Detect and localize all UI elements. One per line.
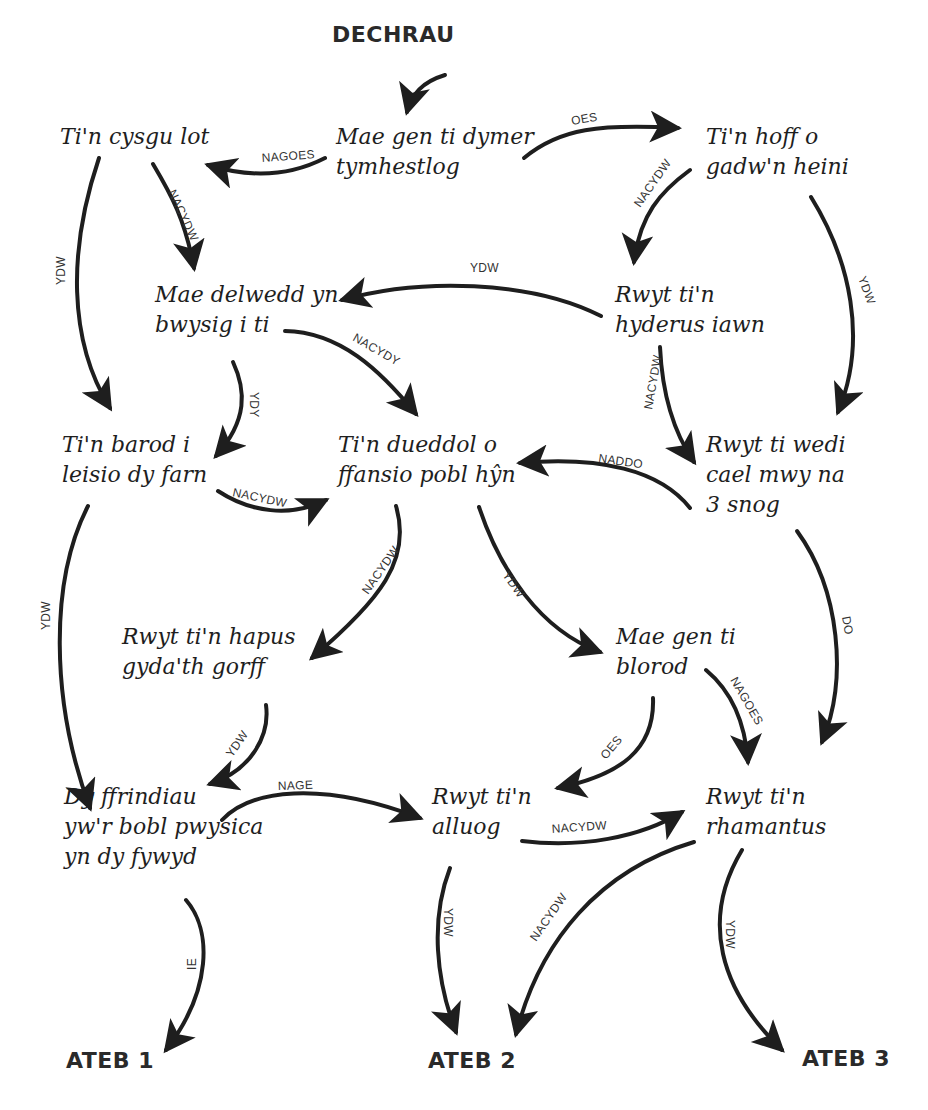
arrow-icon: [438, 868, 456, 1032]
edge-label: NACYDW: [631, 156, 674, 209]
edge-label: YDW: [223, 728, 251, 760]
question-node-n1: Mae gen ti dymertymhestlog: [336, 122, 534, 182]
question-text-line: alluog: [432, 812, 532, 842]
start-label: DECHRAU: [332, 22, 455, 47]
answer-a2: ATEB 2: [428, 1048, 516, 1073]
flowchart-canvas: NAGOESOESYDWNACYDWNACYDWYDWYDWNACYDYYDYN…: [0, 0, 928, 1110]
question-text-line: Ti'n dueddol o: [338, 430, 516, 460]
edge-label: NACYDW: [641, 353, 664, 410]
question-text-line: bwysig i ti: [155, 310, 338, 340]
edge-label: YDW: [855, 274, 878, 306]
question-node-n13: Rwyt ti'nrhamantus: [706, 782, 826, 842]
question-text-line: Rwyt ti'n hapus: [122, 622, 296, 652]
edge-n13-to-a3: YDW: [720, 850, 782, 1050]
question-text-line: tymhestlog: [336, 152, 534, 182]
arrow-icon: [312, 506, 400, 658]
question-node-n10: Mae gen tiblorod: [616, 622, 736, 682]
edge-n6-to-n11: YDW: [39, 506, 90, 808]
edge-n4-to-n7: NACYDY: [285, 330, 416, 414]
question-text-line: yn dy fywyd: [64, 842, 263, 872]
question-text-line: Rwyt ti'n: [432, 782, 532, 812]
question-node-n3: Ti'n hoff ogadw'n heini: [706, 122, 849, 182]
question-text-line: rhamantus: [706, 812, 826, 842]
edge-label: NACYDW: [165, 187, 201, 243]
question-node-n12: Rwyt ti'nalluog: [432, 782, 532, 842]
arrow-icon: [77, 158, 110, 408]
question-text-line: Rwyt ti'n: [615, 280, 765, 310]
question-node-n2: Ti'n cysgu lot: [60, 122, 209, 152]
arrow-icon: [342, 286, 601, 316]
edge-label: NAGE: [278, 778, 314, 793]
answer-a3: ATEB 3: [802, 1046, 890, 1071]
question-text-line: 3 snog: [706, 490, 846, 520]
edge-label: YDW: [470, 261, 499, 275]
edge-start-to-n1: [407, 75, 445, 112]
arrow-icon: [720, 850, 782, 1050]
arrow-icon: [520, 461, 690, 508]
edge-label: NACYDW: [551, 818, 607, 836]
answer-a1: ATEB 1: [66, 1048, 154, 1073]
edge-n9-to-n11: YDW: [210, 705, 267, 784]
edge-label: YDW: [441, 908, 455, 937]
edge-n4-to-n6: YDY: [216, 362, 261, 456]
edge-n3-to-n8: YDW: [811, 197, 878, 412]
edge-label: YDY: [247, 392, 261, 418]
question-node-n6: Ti'n barod ileisio dy farn: [62, 430, 207, 490]
question-text-line: Ti'n cysgu lot: [60, 122, 209, 152]
question-text-line: Mae gen ti dymer: [336, 122, 534, 152]
edge-label: OES: [570, 110, 598, 128]
question-node-n7: Ti'n dueddol offansio pobl hŷn: [338, 430, 516, 490]
question-text-line: Rwyt ti'n: [706, 782, 826, 812]
edge-n10-to-n12: OES: [558, 698, 653, 788]
edge-label: DO: [839, 615, 856, 636]
edge-n1-to-n2: NAGOES: [208, 147, 325, 173]
edge-n12-to-n13: NACYDW: [522, 812, 682, 843]
edge-label: YDW: [54, 256, 68, 285]
edge-n10-to-n13: NAGOES: [706, 670, 766, 762]
question-text-line: cael mwy na: [706, 460, 846, 490]
edge-label: NACYDY: [351, 330, 403, 368]
edge-n1-to-n3: OES: [524, 110, 678, 158]
edge-label: OES: [598, 733, 626, 762]
edge-n7-to-n9: NACYDW: [312, 506, 402, 658]
edge-label: NACYDW: [527, 890, 570, 943]
arrow-icon: [516, 842, 694, 1034]
arrow-icon: [166, 900, 204, 1050]
edge-label: YDW: [723, 920, 737, 949]
arrow-icon: [811, 197, 853, 412]
edge-label: NADDO: [598, 451, 644, 471]
question-text-line: Dy ffrindiau: [64, 782, 263, 812]
question-text-line: gadw'n heini: [706, 152, 849, 182]
arrow-icon: [285, 331, 416, 414]
edge-n8-to-n13: DO: [797, 531, 856, 742]
edge-n5-to-n8: NACYDW: [641, 347, 694, 462]
arrow-icon: [216, 362, 242, 456]
question-text-line: blorod: [616, 652, 736, 682]
edge-n13-to-a2: NACYDW: [516, 842, 694, 1034]
question-node-n4: Mae delwedd ynbwysig i ti: [155, 280, 338, 340]
question-text-line: Mae gen ti: [616, 622, 736, 652]
edge-n5-to-n4: YDW: [342, 261, 601, 316]
arrow-icon: [60, 506, 90, 808]
edge-label: IE: [185, 958, 199, 970]
question-node-n9: Rwyt ti'n hapusgyda'th gorff: [122, 622, 296, 682]
arrow-icon: [407, 75, 445, 112]
question-text-line: Mae delwedd yn: [155, 280, 338, 310]
edge-n8-to-n7: NADDO: [520, 451, 690, 508]
arrow-icon: [524, 127, 678, 158]
edge-n2-to-n6: YDW: [54, 158, 110, 408]
edge-n2-to-n4: NACYDW: [153, 164, 201, 268]
question-text-line: gyda'th gorff: [122, 652, 296, 682]
arrow-icon: [797, 531, 837, 742]
edge-n6-to-n7: NACYDW: [218, 485, 326, 510]
edge-n3-to-n5: NACYDW: [631, 156, 690, 262]
edge-label: YDW: [39, 601, 53, 630]
arrow-icon: [479, 507, 600, 652]
edge-n7-to-n10: YDW: [479, 507, 600, 652]
question-text-line: Ti'n barod i: [62, 430, 207, 460]
edge-label: NAGOES: [261, 147, 315, 165]
edge-n11-to-a1: IE: [166, 900, 204, 1050]
question-text-line: Rwyt ti wedi: [706, 430, 846, 460]
question-text-line: yw'r bobl pwysica: [64, 812, 263, 842]
question-node-n8: Rwyt ti wedicael mwy na3 snog: [706, 430, 846, 520]
